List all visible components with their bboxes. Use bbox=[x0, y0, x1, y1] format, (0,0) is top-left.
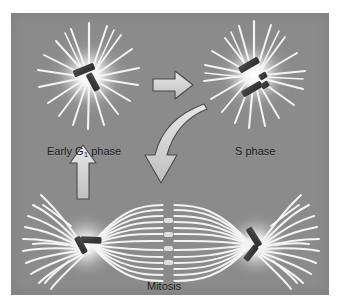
label-early-g1-subscript: 1 bbox=[84, 150, 88, 159]
mitotic-spindle bbox=[23, 195, 319, 289]
aster-early-g1 bbox=[38, 23, 139, 129]
arrow-g1-to-s bbox=[153, 71, 193, 99]
centrosome-cycle-figure: Early G1 phase S phase Mitosis bbox=[0, 0, 340, 308]
label-s-phase: S phase bbox=[235, 145, 275, 157]
label-mitosis: Mitosis bbox=[147, 280, 181, 292]
figure-panel: Early G1 phase S phase Mitosis bbox=[11, 13, 329, 295]
label-early-g1-suffix: phase bbox=[88, 145, 121, 157]
arrow-s-to-mitosis bbox=[145, 104, 207, 183]
aster-s-phase bbox=[204, 21, 305, 128]
label-early-g1-prefix: Early G bbox=[47, 145, 84, 157]
label-early-g1-phase: Early G1 phase bbox=[47, 145, 121, 157]
mother-centriole-left-pole bbox=[80, 236, 101, 244]
metaphase-plate-gap bbox=[163, 199, 174, 287]
